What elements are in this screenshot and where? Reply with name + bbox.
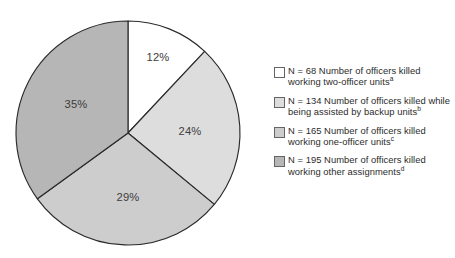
legend-item-label: N = 165 Number of officers killed workin… — [288, 125, 452, 148]
pie-slice-label: 29% — [117, 191, 140, 203]
legend-footnote-marker: c — [391, 135, 394, 142]
legend-item-label: N = 134 Number of officers killed while … — [288, 95, 452, 118]
pie-slices-group — [16, 21, 240, 245]
legend-footnote-marker: a — [390, 75, 394, 82]
legend-swatch-icon — [274, 156, 285, 167]
chart-legend: N = 68 Number of officers killed working… — [274, 65, 452, 184]
legend-swatch-icon — [274, 127, 285, 138]
legend-swatch-icon — [274, 67, 285, 78]
pie-chart-figure: 12%24%29%35% N = 68 Number of officers k… — [0, 0, 455, 258]
legend-footnote-marker: b — [417, 105, 421, 112]
pie-chart-plot-area: 12%24%29%35% — [0, 0, 260, 258]
legend-swatch-icon — [274, 97, 285, 108]
legend-footnote-marker: d — [401, 165, 405, 172]
legend-item[interactable]: N = 68 Number of officers killed working… — [274, 65, 452, 88]
pie-slice-label: 12% — [147, 51, 170, 63]
pie-slice-label: 35% — [65, 98, 88, 110]
legend-item[interactable]: N = 134 Number of officers killed while … — [274, 95, 452, 118]
legend-item[interactable]: N = 165 Number of officers killed workin… — [274, 125, 452, 148]
legend-item[interactable]: N = 195 Number of officers killed workin… — [274, 154, 452, 177]
legend-item-label: N = 195 Number of officers killed workin… — [288, 154, 452, 177]
legend-item-label: N = 68 Number of officers killed working… — [288, 65, 452, 88]
pie-chart-svg: 12%24%29%35% — [0, 0, 260, 258]
pie-slice-label: 24% — [179, 125, 202, 137]
